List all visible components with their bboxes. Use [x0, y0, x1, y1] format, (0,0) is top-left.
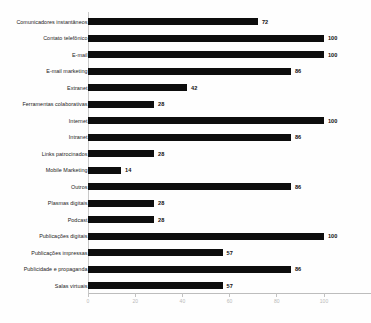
bar-row: Links patrocinados28 [0, 146, 371, 163]
category-label: Comunicadores instantâneos [16, 14, 87, 31]
category-label: Extranet [67, 80, 87, 97]
category-label: Plasmas digitais [48, 195, 88, 212]
bar [88, 134, 291, 141]
x-tick [135, 293, 136, 297]
bar-row: Extranet42 [0, 80, 371, 97]
bar-row: Podcast28 [0, 212, 371, 229]
category-label: Internet [69, 113, 88, 130]
bar [88, 84, 187, 91]
category-label: Mobile Marketing [46, 162, 88, 179]
category-label: Salas virtuais [55, 278, 88, 295]
bar-value-label: 100 [328, 113, 337, 130]
bar [88, 68, 291, 75]
x-tick-label: 100 [320, 298, 328, 304]
bar [88, 200, 154, 207]
bar-value-label: 100 [328, 228, 337, 245]
bar-row: Outros86 [0, 179, 371, 196]
bar-value-label: 28 [158, 146, 164, 163]
bar-value-label: 86 [295, 261, 301, 278]
bar [88, 101, 154, 108]
bar-row: Publicações impressas57 [0, 245, 371, 262]
x-tick-label: 80 [274, 298, 280, 304]
category-label: Contato telefônico [43, 30, 87, 47]
category-label: E-mail [72, 47, 88, 64]
bar-row: E-mail100 [0, 47, 371, 64]
x-tick [324, 293, 325, 297]
x-tick-label: 40 [180, 298, 186, 304]
category-label: Links patrocinados [42, 146, 88, 163]
bar-value-label: 72 [262, 14, 268, 31]
bar-chart: Comunicadores instantâneos72Contato tele… [0, 0, 371, 323]
x-tick-label: 60 [227, 298, 233, 304]
bar-row: Internet100 [0, 113, 371, 130]
x-tick [88, 293, 89, 297]
bar-row: Intranet86 [0, 129, 371, 146]
bar-value-label: 100 [328, 30, 337, 47]
bar-value-label: 28 [158, 195, 164, 212]
bar-row: Mobile Marketing14 [0, 162, 371, 179]
category-label: Intranet [69, 129, 88, 146]
x-tick [229, 293, 230, 297]
bar-row: Ferramentas colaborativas28 [0, 96, 371, 113]
bar [88, 150, 154, 157]
bar-row: Plasmas digitais28 [0, 195, 371, 212]
bar-row: Salas virtuais57 [0, 278, 371, 295]
bar-value-label: 14 [125, 162, 131, 179]
bar-value-label: 28 [158, 212, 164, 229]
category-label: Publicações digitais [39, 228, 87, 245]
chart-title [60, 0, 312, 7]
x-tick-label: 0 [87, 298, 90, 304]
category-label: Outros [71, 179, 87, 196]
bar [88, 266, 291, 273]
bar-value-label: 42 [191, 80, 197, 97]
category-label: Podcast [68, 212, 88, 229]
category-label: Publicidade e propaganda [24, 261, 88, 278]
bar-row: Comunicadores instantâneos72 [0, 14, 371, 31]
category-label: Publicações impressas [31, 245, 87, 262]
bar [88, 249, 223, 256]
bar-value-label: 86 [295, 63, 301, 80]
x-tick [182, 293, 183, 297]
bar-value-label: 100 [328, 47, 337, 64]
bar-row: Contato telefônico100 [0, 30, 371, 47]
bar [88, 183, 291, 190]
bar [88, 51, 324, 58]
bar [88, 216, 154, 223]
bar-row: Publicações digitais100 [0, 228, 371, 245]
category-label: Ferramentas colaborativas [22, 96, 87, 113]
bar-value-label: 86 [295, 129, 301, 146]
bar-value-label: 86 [295, 179, 301, 196]
bar [88, 167, 121, 174]
bar [88, 117, 324, 124]
x-tick [276, 293, 277, 297]
category-label: E-mail marketing [46, 63, 87, 80]
bar [88, 282, 223, 289]
bar-value-label: 57 [227, 245, 233, 262]
bar-row: Publicidade e propaganda86 [0, 261, 371, 278]
bar [88, 233, 324, 240]
bar-value-label: 28 [158, 96, 164, 113]
bar [88, 18, 258, 25]
bar [88, 35, 324, 42]
plot-area: Comunicadores instantâneos72Contato tele… [0, 12, 371, 294]
bar-row: E-mail marketing86 [0, 63, 371, 80]
bar-value-label: 57 [227, 278, 233, 295]
x-tick-label: 20 [132, 298, 138, 304]
